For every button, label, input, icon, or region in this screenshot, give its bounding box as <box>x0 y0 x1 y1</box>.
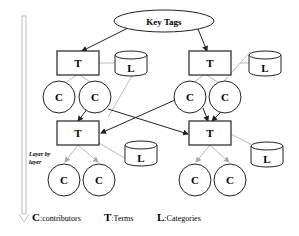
svg-text:T:Terms: T:Terms <box>104 211 133 223</box>
svg-text:T: T <box>206 57 214 69</box>
svg-text:Key Tags: Key Tags <box>146 17 182 27</box>
contributor-nodes-bottom-left: C C <box>48 164 115 196</box>
svg-text:C: C <box>60 174 68 186</box>
term-links <box>78 28 225 134</box>
contributor-nodes-top-left: C C <box>43 81 111 113</box>
svg-text:L: L <box>261 62 268 74</box>
layer-by-label: Layer by layer <box>28 151 52 165</box>
term-node-mid-right: T <box>189 121 231 145</box>
contributor-nodes-bottom-right: C C <box>179 164 246 196</box>
svg-text:L: L <box>137 152 144 164</box>
svg-text:C: C <box>55 91 63 103</box>
key-tags-node: Key Tags <box>114 10 214 32</box>
legend: C:contributors T:Terms L:Categories <box>32 211 201 223</box>
svg-text:L: L <box>263 153 270 165</box>
category-node-top-right: L <box>249 51 281 76</box>
svg-text:C: C <box>186 91 194 103</box>
svg-text:T: T <box>74 57 82 69</box>
svg-text:C: C <box>226 174 234 186</box>
svg-text:C:contributors: C:contributors <box>32 211 81 223</box>
term-node-mid-left: T <box>57 121 99 145</box>
svg-text:C: C <box>95 174 103 186</box>
svg-text:C: C <box>221 91 229 103</box>
contributor-nodes-top-right: C C <box>174 81 241 113</box>
term-node-top-right: T <box>189 51 231 75</box>
svg-text:C: C <box>191 174 199 186</box>
layered-tag-diagram: Layer by layer Key Tags T <box>0 0 299 236</box>
category-node-mid-right: L <box>251 142 283 167</box>
svg-text:L: L <box>127 62 134 74</box>
svg-text:C: C <box>91 91 99 103</box>
category-node-mid-left: L <box>125 141 157 166</box>
term-node-top-left: T <box>57 51 99 75</box>
category-node-top-left: L <box>115 51 147 76</box>
layer-arrow <box>19 16 29 222</box>
svg-text:T: T <box>74 127 82 139</box>
svg-text:L:Categories: L:Categories <box>157 211 201 223</box>
svg-text:T: T <box>206 127 214 139</box>
